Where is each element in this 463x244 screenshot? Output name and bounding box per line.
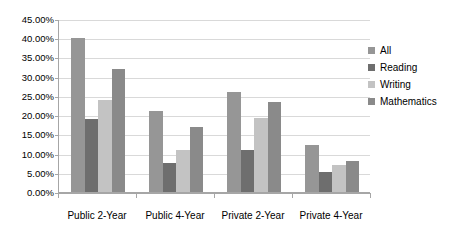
bar-group (137, 20, 215, 192)
bar (305, 145, 319, 192)
bar (241, 150, 255, 192)
bar (254, 118, 268, 192)
bar (190, 127, 204, 192)
bar-group (59, 20, 137, 192)
legend-item: All (368, 42, 463, 59)
legend-swatch (368, 64, 375, 71)
x-tick-mark (214, 193, 215, 198)
y-tick-label: 25.00% (2, 92, 54, 102)
bar (227, 92, 241, 192)
x-tick-label: Private 2-Year (222, 211, 285, 221)
y-tick-label: 15.00% (2, 131, 54, 141)
legend-label: All (380, 46, 391, 56)
bar (112, 69, 126, 192)
y-tick-label: 5.00% (2, 169, 54, 179)
plot-area (58, 20, 370, 193)
legend: AllReadingWritingMathematics (368, 42, 463, 110)
legend-label: Writing (380, 80, 411, 90)
y-tick-label: 45.00% (2, 15, 54, 25)
y-tick-label: 10.00% (2, 150, 54, 160)
y-tick-label: 40.00% (2, 34, 54, 44)
bar-group (215, 20, 293, 192)
x-axis: Public 2-YearPublic 4-YearPrivate 2-Year… (58, 193, 370, 223)
bar (319, 172, 333, 192)
bar-chart: 0.00%5.00%10.00%15.00%20.00%25.00%30.00%… (0, 0, 463, 244)
y-tick-label: 35.00% (2, 54, 54, 64)
legend-item: Mathematics (368, 93, 463, 110)
legend-label: Mathematics (380, 97, 437, 107)
bar (332, 165, 346, 192)
bar (71, 38, 85, 192)
y-tick-label: 0.00% (2, 188, 54, 198)
y-tick-label: 30.00% (2, 73, 54, 83)
bar (176, 150, 190, 192)
bar (98, 100, 112, 192)
x-tick-label: Public 4-Year (145, 211, 204, 221)
x-tick-mark (58, 193, 59, 198)
legend-label: Reading (380, 63, 417, 73)
bar (163, 163, 177, 192)
x-tick-mark (370, 193, 371, 198)
x-tick-label: Public 2-Year (67, 211, 126, 221)
x-tick-mark (292, 193, 293, 198)
x-tick-mark (136, 193, 137, 198)
legend-item: Writing (368, 76, 463, 93)
legend-item: Reading (368, 59, 463, 76)
bar (346, 161, 360, 192)
bar (268, 102, 282, 192)
y-tick-label: 20.00% (2, 111, 54, 121)
x-tick-label: Private 4-Year (300, 211, 363, 221)
legend-swatch (368, 98, 375, 105)
legend-swatch (368, 47, 375, 54)
bar (149, 111, 163, 192)
legend-swatch (368, 81, 375, 88)
y-axis: 0.00%5.00%10.00%15.00%20.00%25.00%30.00%… (0, 20, 54, 193)
bar (85, 119, 99, 192)
bar-group (293, 20, 371, 192)
